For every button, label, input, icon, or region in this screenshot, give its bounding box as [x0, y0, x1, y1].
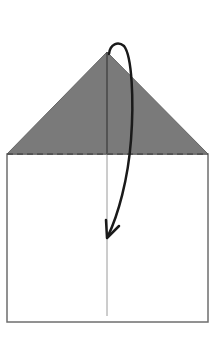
origami-diagram	[0, 0, 218, 340]
